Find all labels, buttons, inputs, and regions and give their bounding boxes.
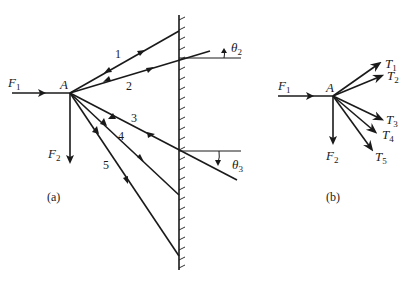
caption-b: (b) bbox=[326, 190, 340, 204]
svg-text:T4: T4 bbox=[382, 127, 394, 144]
cable-2-label: 2 bbox=[126, 79, 132, 93]
force-f2-b: F2 bbox=[325, 96, 338, 165]
point-a-b-label: A bbox=[325, 80, 334, 95]
tension-t5: T5 bbox=[333, 96, 387, 166]
svg-text:T2: T2 bbox=[387, 68, 399, 85]
angle-theta-2: θ2 bbox=[179, 40, 242, 58]
cable-5: 5 bbox=[70, 93, 179, 256]
svg-text:F1: F1 bbox=[277, 78, 290, 95]
point-a-label: A bbox=[59, 77, 68, 92]
force-diagram: F1 A F2 1 2 θ2 bbox=[0, 0, 414, 283]
cable-2: 2 bbox=[70, 51, 210, 93]
force-f2: F2 bbox=[47, 93, 74, 164]
cable-3: 3 bbox=[70, 93, 237, 180]
cable-3-label: 3 bbox=[131, 111, 137, 125]
svg-text:F2: F2 bbox=[47, 146, 60, 163]
force-f1-b: F1 bbox=[277, 78, 333, 100]
svg-text:F1: F1 bbox=[7, 75, 20, 92]
caption-a: (a) bbox=[47, 190, 60, 204]
svg-text:θ2: θ2 bbox=[231, 40, 242, 57]
svg-text:F2: F2 bbox=[325, 148, 338, 165]
cable-5-label: 5 bbox=[103, 158, 109, 172]
cable-1: 1 bbox=[70, 31, 179, 93]
part-b: F1 A F2 T1 T2 T3 T4 T5 (b) bbox=[277, 56, 399, 204]
cable-1-label: 1 bbox=[115, 47, 121, 61]
svg-text:T5: T5 bbox=[375, 149, 387, 166]
wall bbox=[179, 15, 185, 270]
part-a: F1 A F2 1 2 θ2 bbox=[7, 15, 243, 270]
svg-text:θ3: θ3 bbox=[232, 157, 243, 174]
cable-4-label: 4 bbox=[118, 129, 124, 143]
